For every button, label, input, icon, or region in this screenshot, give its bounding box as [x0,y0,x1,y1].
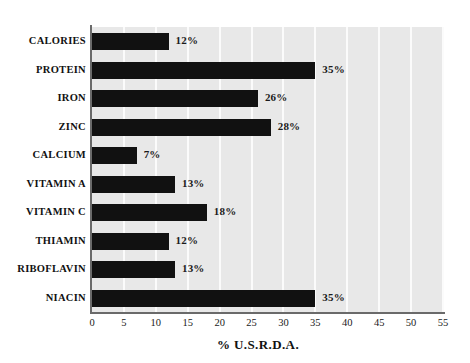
x-axis-line [90,312,445,314]
x-tick-label: 15 [173,316,203,329]
x-tick-label: 35 [300,316,330,329]
category-label: IRON [0,92,86,104]
x-axis-title: % U.S.R.D.A. [0,337,470,353]
bar-value-label: 12% [176,32,199,49]
bar [92,62,315,79]
bar-value-label: 18% [214,203,237,220]
bar [92,33,169,50]
x-tick-label: 45 [364,316,394,329]
bar [92,261,175,278]
bar-value-label: 28% [278,118,301,135]
x-tick-label: 20 [205,316,235,329]
bar [92,290,315,307]
bar-value-label: 12% [176,232,199,249]
category-label: VITAMIN C [0,206,86,218]
bar-value-label: 26% [265,89,288,106]
bar [92,233,169,250]
x-tick-label: 5 [109,316,139,329]
x-tick-label: 40 [332,316,362,329]
bar [92,176,175,193]
bar-chart: 12%35%26%28%7%13%18%12%13%35% CALORIESPR… [0,0,470,363]
category-label: CALORIES [0,35,86,47]
category-label: THIAMIN [0,235,86,247]
x-tick-label: 50 [396,316,426,329]
bar-value-label: 13% [182,175,205,192]
category-label: CALCIUM [0,149,86,161]
x-tick-label: 25 [237,316,267,329]
bar [92,90,258,107]
category-label: ZINC [0,121,86,133]
x-tick-label: 55 [428,316,458,329]
bar [92,147,137,164]
bar [92,119,271,136]
bar-value-label: 35% [322,289,345,306]
x-tick-label: 10 [141,316,171,329]
category-label: VITAMIN A [0,178,86,190]
bar [92,204,207,221]
bar-value-label: 7% [144,146,161,163]
bar-value-label: 13% [182,260,205,277]
category-label: PROTEIN [0,64,86,76]
x-tick-label: 30 [268,316,298,329]
x-tick-label: 0 [77,316,107,329]
bar-value-label: 35% [322,61,345,78]
category-label: RIBOFLAVIN [0,263,86,275]
category-label: NIACIN [0,292,86,304]
